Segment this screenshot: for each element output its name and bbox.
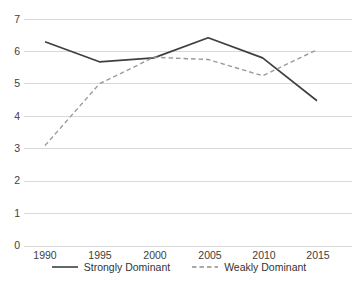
series-line-weakly-dominant [45,50,317,146]
legend-item-strongly-dominant: Strongly Dominant [52,262,170,273]
y-tick-label-3: 3 [2,143,20,154]
series-line-strongly-dominant [45,38,317,101]
y-tick-label-5: 5 [2,78,20,89]
x-tick-label-2010: 2010 [244,250,284,261]
solid-line-swatch [52,262,78,272]
x-tick-label-2000: 2000 [135,250,175,261]
y-tick-label-0: 0 [2,240,20,251]
chart-legend: Strongly Dominant Weakly Dominant [0,262,358,273]
line-chart: 7 6 5 4 3 2 1 0 1990 1995 2000 2005 2010… [0,0,358,288]
legend-label-strongly-dominant: Strongly Dominant [84,262,170,273]
chart-plot-area [0,0,358,288]
y-tick-label-1: 1 [2,208,20,219]
x-tick-label-1995: 1995 [80,250,120,261]
x-tick-label-2005: 2005 [190,250,230,261]
legend-item-weakly-dominant: Weakly Dominant [192,262,306,273]
x-tick-label-1990: 1990 [25,250,65,261]
dashed-line-swatch [192,262,218,272]
y-tick-label-6: 6 [2,46,20,57]
y-tick-label-7: 7 [2,14,20,25]
legend-label-weakly-dominant: Weakly Dominant [224,262,306,273]
x-tick-label-2015: 2015 [298,250,338,261]
y-tick-label-2: 2 [2,175,20,186]
y-tick-label-4: 4 [2,111,20,122]
